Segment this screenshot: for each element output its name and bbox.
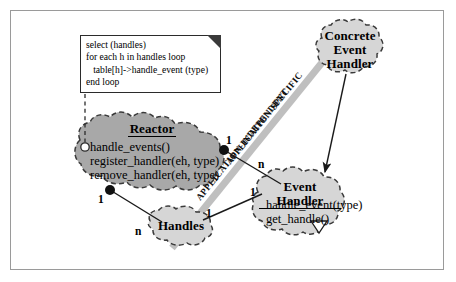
mult-handles-eh-far: 1 bbox=[250, 186, 256, 198]
reactor-blob-shape bbox=[75, 112, 224, 190]
reactor-handles-line bbox=[110, 190, 162, 222]
mult-reactor-eh-n: n bbox=[258, 158, 264, 170]
note-line-1: select (handles) bbox=[86, 39, 216, 51]
mult-reactor-handles-1: 1 bbox=[98, 193, 104, 205]
concrete-event-handler-blob-shape bbox=[316, 19, 383, 73]
mult-reactor-handles-n: n bbox=[135, 225, 141, 237]
mult-handles-eh-1: 1 bbox=[206, 207, 212, 219]
note-line-3: table[h]->handle_event (type) bbox=[86, 64, 216, 76]
event-handler-blob-shape bbox=[252, 167, 344, 235]
note-line-2: for each h in handles loop bbox=[86, 51, 216, 63]
hollow-circle-icon bbox=[81, 143, 89, 151]
dog-ear-fold-icon bbox=[207, 35, 221, 49]
diagram-root: select (handles) for each h in handles l… bbox=[0, 0, 456, 282]
filled-circle-icon-handles bbox=[105, 185, 115, 195]
mult-reactor-eh-1: 1 bbox=[226, 134, 232, 146]
note-line-4: end loop bbox=[86, 76, 216, 88]
pseudocode-note: select (handles) for each h in handles l… bbox=[80, 35, 221, 93]
generalization-line bbox=[325, 74, 346, 172]
